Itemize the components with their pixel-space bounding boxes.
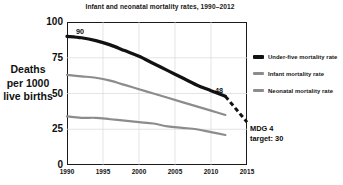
series-line-0 bbox=[67, 36, 225, 96]
y-tick-label: 25 bbox=[36, 124, 63, 134]
legend-item-2[interactable]: Neonatal mortality rate bbox=[253, 84, 343, 97]
legend-item-1[interactable]: Infant mortality rate bbox=[253, 67, 343, 80]
legend-label: Neonatal mortality rate bbox=[268, 88, 333, 94]
mortality-rates-chart: Infant and neonatal mortality rates, 199… bbox=[0, 0, 343, 185]
annotation-end-value: 48 bbox=[215, 86, 223, 95]
x-tick-2010: 2010 bbox=[204, 168, 219, 175]
chart-title: Infant and neonatal mortality rates, 199… bbox=[60, 2, 260, 11]
x-tick-1990: 1990 bbox=[60, 168, 75, 175]
x-tick-2015: 2015 bbox=[240, 168, 255, 175]
chart-legend: Under-five mortality rateInfant mortalit… bbox=[253, 50, 343, 101]
x-tick-2000: 2000 bbox=[132, 168, 147, 175]
legend-swatch-icon bbox=[253, 72, 264, 75]
y-tick-label: 50 bbox=[36, 89, 63, 99]
legend-label: Under-five mortality rate bbox=[268, 54, 337, 60]
series-line-2 bbox=[67, 116, 225, 135]
mdg-target-line-2: target: 30 bbox=[250, 134, 283, 144]
projection-line-dashed bbox=[225, 96, 247, 122]
mdg-target-line-1: MDG 4 bbox=[250, 124, 283, 134]
annotation-mdg-target: MDG 4 target: 30 bbox=[250, 124, 283, 144]
series-line-1 bbox=[67, 75, 225, 115]
y-tick-label: 100 bbox=[36, 17, 63, 27]
annotation-start-value: 90 bbox=[76, 27, 84, 36]
legend-label: Infant mortality rate bbox=[268, 71, 324, 77]
legend-swatch-icon bbox=[253, 89, 264, 92]
legend-swatch-icon bbox=[253, 55, 264, 59]
y-axis-label-line-1: Deaths bbox=[0, 63, 56, 77]
x-tick-1995: 1995 bbox=[96, 168, 111, 175]
x-tick-2005: 2005 bbox=[168, 168, 183, 175]
legend-item-0[interactable]: Under-five mortality rate bbox=[253, 50, 343, 63]
y-tick-label: 75 bbox=[36, 53, 63, 63]
